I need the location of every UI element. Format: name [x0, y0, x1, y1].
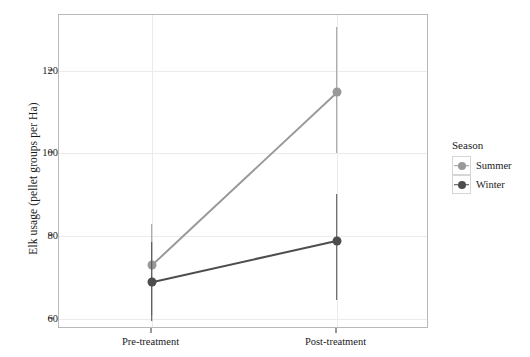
gridline-horizontal	[59, 319, 427, 320]
legend-title: Season	[452, 139, 528, 151]
data-point	[147, 278, 156, 287]
y-axis-ticks: 6080100120	[0, 0, 58, 357]
legend-item[interactable]: Summer	[452, 156, 528, 175]
legend-label: Summer	[476, 160, 512, 171]
series-line	[151, 92, 337, 266]
legend-label: Winter	[476, 179, 505, 190]
plot-panel	[58, 14, 428, 328]
y-tick-label: 60	[12, 312, 58, 323]
x-tick-label: Post-treatment	[305, 336, 366, 347]
data-point	[332, 236, 341, 245]
series-line	[151, 240, 336, 283]
y-tick-label: 100	[12, 147, 58, 158]
gridline-horizontal	[59, 236, 427, 237]
x-tick-mark	[150, 328, 151, 333]
legend-key-icon	[452, 156, 471, 175]
data-point	[332, 88, 341, 97]
gridline-horizontal	[59, 153, 427, 154]
x-tick-label: Pre-treatment	[122, 336, 179, 347]
legend: Season SummerWinter	[452, 139, 528, 194]
legend-entries: SummerWinter	[452, 156, 528, 194]
gridline-horizontal	[59, 71, 427, 72]
x-tick-mark	[335, 328, 336, 333]
y-tick-label: 120	[12, 64, 58, 75]
error-bar	[336, 194, 338, 300]
y-tick-label: 80	[12, 230, 58, 241]
elk-usage-interaction-chart: Elk usage (pellet groups per Ha) 6080100…	[0, 0, 530, 357]
legend-key-icon	[452, 175, 471, 194]
legend-item[interactable]: Winter	[452, 175, 528, 194]
x-axis: Pre-treatmentPost-treatment	[58, 328, 428, 357]
